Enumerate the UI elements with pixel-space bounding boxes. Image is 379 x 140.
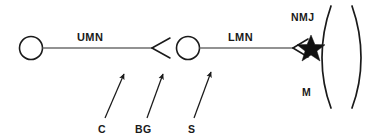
arrow-to-spinal-cord — [194, 72, 211, 118]
upper-motor-neuron-cell-body — [20, 37, 43, 60]
cortex-label: C — [98, 123, 106, 135]
lower-motor-neuron-cell-body — [177, 37, 200, 60]
basal-ganglia-label: BG — [135, 123, 152, 135]
muscle-label: M — [302, 86, 311, 98]
upper-motor-neuron-terminal — [152, 38, 170, 58]
arrow-to-basal-ganglia — [147, 74, 163, 118]
spinal-cord-label: S — [188, 123, 195, 135]
lmn-label: LMN — [228, 31, 253, 43]
neuromuscular-junction-star — [297, 35, 325, 61]
motor-pathway-diagram: UMN LMN NMJ M C BG S — [0, 0, 379, 140]
nmj-label: NMJ — [291, 11, 314, 23]
umn-label: UMN — [77, 31, 103, 43]
muscle-fiber-lens — [322, 6, 361, 108]
diagram-canvas: UMN LMN NMJ M C BG S — [0, 0, 379, 140]
arrow-to-cortex — [105, 74, 124, 118]
